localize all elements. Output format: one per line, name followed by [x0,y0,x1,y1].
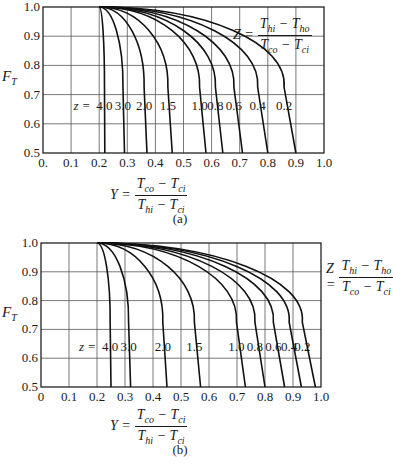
chart-plot-a: 0.0.10.20.30.40.50.60.70.80.91.00.50.60.… [0,0,384,232]
x-tick-label: 0.3 [119,155,135,170]
x-tick-label: 0.6 [203,155,220,170]
curve-label: 3.0 [120,339,136,354]
curve-label: 0.8 [207,98,223,113]
x-tick-label: 0 [38,389,45,404]
curve-label: 2.0 [155,339,171,354]
curve-z-1.5 [97,243,201,387]
y-tick-label: 1.0 [22,235,38,250]
x-tick-label: 0.2 [91,155,107,170]
x-tick-label: 0.3 [117,389,133,404]
x-tick-label: 0.8 [257,389,273,404]
x-tick-label: 0.9 [285,389,301,404]
y-axis-label-a: FT [2,68,17,87]
curve-z-4.0 [97,243,111,387]
x-tick-label: 0.4 [147,155,164,170]
x-tick-label: 0.7 [229,389,246,404]
x-tick-label: 0.5 [175,155,191,170]
x-tick-label: 0.6 [201,389,218,404]
curve-label: 0.6 [226,98,243,113]
x-tick-label: 0.7 [232,155,249,170]
x-tick-label: 0.5 [173,389,189,404]
curve-label: 2.0 [136,98,152,113]
curve-label: 4.0 [96,98,112,113]
chart-panel-b: 00.10.20.30.40.50.60.70.80.91.00.50.60.7… [0,232,384,467]
y-axis-label-b: FT [2,304,17,323]
curve-label: 0.8 [247,339,263,354]
curve-label: 0.4 [250,98,267,113]
y-tick-label: 0.8 [24,57,40,72]
curve-label: 0.6 [265,339,282,354]
curve-label-prefix: z = [72,98,90,113]
x-tick-label: 1.0 [316,155,332,170]
y-formula-b: Y = Tco − Tci Thi − Tci [110,407,187,446]
x-tick-label: 0.9 [288,155,304,170]
curve-label: 1.0 [228,339,244,354]
y-tick-label: 0.7 [22,321,39,336]
y-tick-label: 0.9 [22,264,38,279]
x-tick-label: 0.1 [63,155,79,170]
curve-label: 4.0 [102,339,118,354]
curve-label: 1.0 [191,98,207,113]
x-tick-label: 0.1 [61,389,77,404]
y-tick-label: 0.6 [24,116,41,131]
y-tick-label: 0.6 [22,350,39,365]
x-tick-label: 1.0 [313,389,329,404]
curve-label: 3.0 [115,98,131,113]
curve-label: 0.2 [276,98,292,113]
z-formula-a: Z = Thi − Tho Tco − Tci [233,16,312,55]
caption-b: (b) [160,442,200,458]
y-tick-label: 0.5 [24,145,40,160]
z-formula-b: Z = Thi − Tho Tco − Tci [326,258,393,297]
y-tick-label: 0.7 [24,87,41,102]
y-formula-a: Y = Tco − Tci Thi − Tci [110,176,187,215]
x-tick-label: 0.4 [145,389,162,404]
chart-panel-a: 0.0.10.20.30.40.50.60.70.80.91.00.50.60.… [0,0,384,232]
curve-label-prefix: z = [78,339,96,354]
x-tick-label: 0.8 [260,155,276,170]
curve-z-2.0 [97,243,167,387]
y-tick-label: 0.8 [22,293,38,308]
caption-a: (a) [160,211,200,227]
y-tick-label: 0.9 [24,28,40,43]
curve-z-3.0 [97,243,131,387]
y-tick-label: 0.5 [22,379,38,394]
x-tick-label: 0.2 [89,389,105,404]
y-tick-label: 1.0 [24,0,40,14]
curve-label: 1.5 [186,339,202,354]
curve-label: 0.2 [294,339,310,354]
curve-z-1.5 [99,7,172,153]
curve-z-4.0 [99,7,105,153]
curve-label: 1.5 [160,98,176,113]
